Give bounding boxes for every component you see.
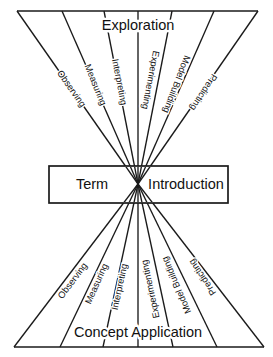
bottom-ray-7 bbox=[138, 184, 264, 347]
bottom-label-interpreting: Interpreting bbox=[110, 263, 130, 311]
bottom-label-experimenting: Experimenting bbox=[139, 259, 161, 319]
exploration-heading-group: Exploration Exploration bbox=[102, 17, 175, 33]
bottom-label-observing: Observing bbox=[56, 261, 89, 301]
bottom-fan-labels: Observing Observing Measuring Measuring … bbox=[56, 255, 218, 319]
concept-application-title: Concept Application bbox=[74, 324, 202, 340]
top-label-interpreting: Interpreting bbox=[110, 58, 129, 106]
top-fan-labels: Observing Observing Measuring Measuring … bbox=[55, 50, 219, 114]
top-label-predicting: Predicting bbox=[188, 72, 219, 112]
top-label-observing: Observing bbox=[55, 68, 87, 108]
top-label-model-building: Model Building bbox=[161, 54, 192, 115]
learning-cycle-canvas: Observing Observing Measuring Measuring … bbox=[0, 0, 273, 357]
term-label: Term bbox=[76, 176, 108, 192]
learning-cycle-diagram: Observing Observing Measuring Measuring … bbox=[0, 0, 273, 357]
introduction-label: Introduction bbox=[148, 176, 224, 192]
bottom-label-predicting: Predicting bbox=[187, 257, 218, 297]
bottom-fan-group bbox=[14, 184, 264, 347]
concept-application-heading-group: Concept Application Concept Application bbox=[74, 324, 202, 340]
top-fan-group bbox=[17, 11, 258, 184]
exploration-title: Exploration bbox=[102, 17, 175, 33]
